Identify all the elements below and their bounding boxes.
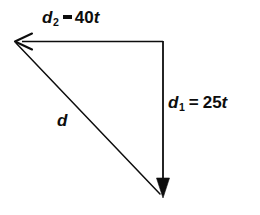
vector-d bbox=[16, 43, 160, 194]
label-d-variable: d bbox=[57, 111, 67, 130]
vector-d1 bbox=[157, 41, 170, 198]
label-d2-value: 40 bbox=[75, 8, 94, 27]
label-d1-value: 25 bbox=[203, 93, 222, 112]
label-d2-unit-variable: t bbox=[94, 8, 100, 27]
label-d: d bbox=[57, 112, 67, 129]
vector-diagram: d240t d1=25t d bbox=[0, 0, 260, 215]
label-d1-variable: d bbox=[168, 93, 178, 112]
vector-d2 bbox=[15, 34, 163, 50]
label-d1-subscript: 1 bbox=[178, 101, 184, 113]
label-d2-variable: d bbox=[42, 8, 52, 27]
label-d1: d1=25t bbox=[168, 94, 227, 112]
label-d1-equals: = bbox=[188, 93, 200, 112]
label-d2-subscript: 2 bbox=[52, 16, 58, 28]
vector-d1-arrowhead-icon bbox=[157, 178, 170, 198]
label-d2: d240t bbox=[42, 9, 99, 27]
vector-d-shaft bbox=[16, 43, 160, 194]
label-d2-equals-icon bbox=[63, 15, 72, 19]
label-d1-unit-variable: t bbox=[222, 93, 228, 112]
